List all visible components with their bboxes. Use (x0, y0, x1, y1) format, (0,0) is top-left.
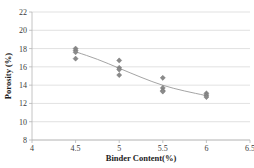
data-point-7 (117, 72, 122, 77)
y-tick-label-18: 18 (19, 45, 27, 54)
axes-group (32, 12, 250, 140)
x-tick-label-5: 5 (117, 144, 121, 153)
data-point-3 (73, 56, 78, 61)
x-tick-label-4.5: 4.5 (71, 144, 81, 153)
axis-titles-group: Binder Content(%)Porosity (%) (3, 53, 176, 163)
gridlines-group (32, 12, 250, 140)
y-axis-title: Porosity (%) (3, 53, 13, 100)
y-tick-label-8: 8 (23, 136, 27, 145)
x-tick-label-6.5: 6.5 (245, 144, 254, 153)
y-tick-label-10: 10 (19, 118, 27, 127)
chart-plot-area: 81012141618202244.555.566.5 Binder Conte… (0, 0, 254, 168)
trend-line (76, 52, 207, 96)
y-tick-label-20: 20 (19, 26, 27, 35)
x-tick-label-6: 6 (204, 144, 208, 153)
data-point-4 (117, 58, 122, 63)
x-tick-label-5.5: 5.5 (158, 144, 168, 153)
porosity-binder-content-chart: 81012141618202244.555.566.5 Binder Conte… (0, 0, 254, 168)
y-tick-label-14: 14 (19, 81, 27, 90)
data-point-8 (160, 75, 165, 80)
trendline-group (76, 52, 207, 96)
y-tick-label-16: 16 (19, 63, 27, 72)
tick-labels-group: 81012141618202244.555.566.5 (19, 8, 254, 153)
ticks-group (29, 12, 250, 143)
x-tick-label-4: 4 (30, 144, 34, 153)
y-tick-label-12: 12 (19, 99, 27, 108)
y-tick-label-22: 22 (19, 8, 27, 17)
x-axis-title: Binder Content(%) (106, 153, 177, 163)
